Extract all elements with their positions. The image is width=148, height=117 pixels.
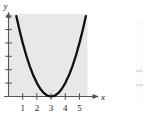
x-tick-label: 3 bbox=[49, 103, 54, 113]
figure-container: y 12345 x bbox=[0, 0, 148, 117]
x-tick-label: 5 bbox=[77, 103, 82, 113]
x-tick-label: 1 bbox=[20, 103, 25, 113]
x-tick-label: 4 bbox=[63, 103, 68, 113]
parabola-figure: y 12345 x bbox=[0, 0, 148, 117]
bleed-mark bbox=[136, 84, 143, 86]
adjacent-figure-bleed bbox=[136, 22, 143, 104]
y-axis-label: y bbox=[3, 1, 8, 11]
x-axis-arrowhead bbox=[93, 94, 100, 99]
x-tick-label: 2 bbox=[35, 103, 40, 113]
x-axis-tick-labels: 12345 bbox=[20, 103, 82, 113]
bleed-mark bbox=[136, 70, 143, 72]
x-axis-label: x bbox=[100, 92, 105, 102]
